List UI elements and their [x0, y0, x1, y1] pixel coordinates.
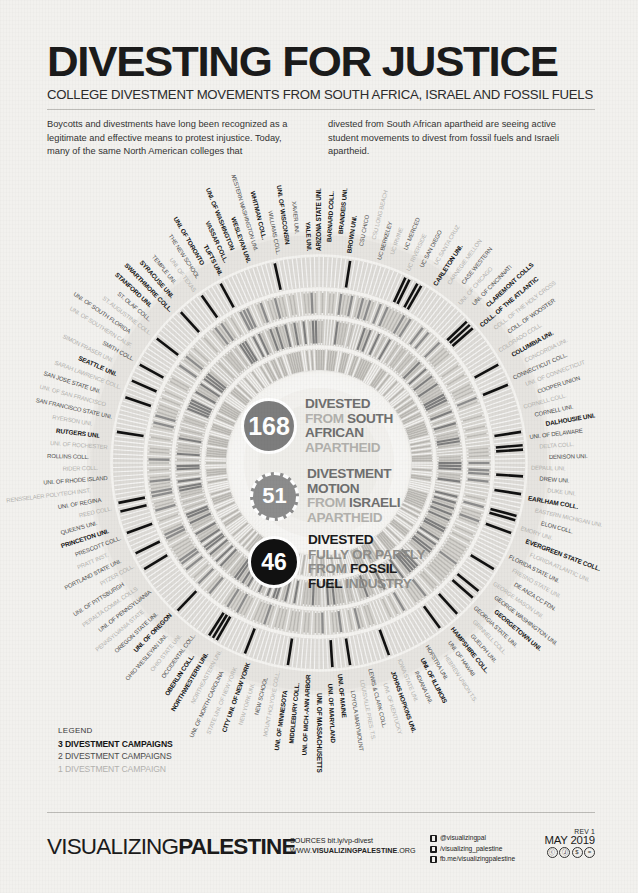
college-label: DEPAUL UNI. [531, 465, 566, 472]
instagram-icon [430, 846, 437, 853]
intro-column-left: Boycotts and divestments have long been … [47, 118, 302, 159]
college-label: BRANDEIS UNI. [337, 188, 348, 235]
legend-item-three: 3 DIVESTMENT CAMPAIGNS [58, 738, 173, 750]
intro-column-right: divested from South African apartheid ar… [328, 118, 583, 159]
college-label: DUKE UNI. [547, 487, 576, 496]
footer-divider [47, 812, 595, 813]
college-label: XAVIER UNI. [291, 201, 300, 235]
legend-item-one: 1 DIVESTMENT CAMPAIGN [58, 763, 173, 775]
college-label: LOYOLA MARYMOUNT [350, 690, 365, 752]
publication-date: MAY 2019 [544, 834, 595, 846]
stat-label-fossil-fuel: DIVESTED FULLY OR PARTLY FROM FOSSIL FUE… [308, 533, 425, 591]
college-label: RYERSON UNI. [52, 414, 94, 427]
page-title: DIVESTING FOR JUSTICE [47, 40, 606, 82]
intro-text: Boycotts and divestments have long been … [47, 118, 595, 159]
sources-info: SOURCES bit.ly/vp-divest WWW.VISUALIZING… [290, 836, 416, 857]
college-label: UNI. OF MASSACHUSETTS [316, 693, 323, 773]
page-footer: VISUALIZINGPALESTINE SOURCES bit.ly/vp-d… [47, 824, 595, 872]
facebook-icon [430, 856, 437, 863]
social-row-twitter[interactable]: @visualizingpal [430, 833, 515, 844]
legend: LEGEND 3 DIVESTMENT CAMPAIGNS 2 DIVESTME… [58, 726, 173, 775]
college-label: ROLLINS COLL. [47, 453, 90, 460]
cc-badge-nd: = [584, 847, 595, 858]
college-label: DENISON UNI. [549, 453, 588, 460]
stat-value-46: 46 [248, 536, 300, 588]
stat-block-fossil-fuel: 46 DIVESTED FULLY OR PARTLY FROM FOSSIL … [248, 533, 425, 591]
legend-item-two: 2 DIVESTMENT CAMPAIGNS [58, 750, 173, 762]
college-label: RIDER COLL. [63, 465, 99, 472]
page-header: DIVESTING FOR JUSTICE COLLEGE DIVESTMENT… [47, 40, 595, 110]
creative-commons-badges: ⓒⒿ$= [544, 847, 595, 858]
college-label: DELTA COLL. [539, 441, 575, 450]
college-label: UNI. OF MARYLAND [327, 684, 337, 744]
stat-label-israel: DIVESTMENT MOTION FROM ISRAELI APARTHEID [307, 467, 400, 525]
cc-badge-by: Ⓙ [559, 847, 570, 858]
cc-badge-nc: $ [572, 847, 583, 858]
college-label: YALE UNI. [305, 221, 313, 251]
header-divider [47, 109, 595, 110]
cc-badge-cc: ⓒ [547, 847, 558, 858]
page-subtitle: COLLEGE DIVESTMENT MOVEMENTS FROM SOUTH … [47, 87, 595, 102]
stat-block-israel: 51 DIVESTMENT MOTION FROM ISRAELI APARTH… [250, 467, 400, 525]
college-label: ARIZONA STATE UNI. [315, 188, 322, 251]
social-row-facebook[interactable]: fb.me/visualizingpalestine [430, 854, 515, 865]
stat-value-51: 51 [250, 472, 299, 521]
social-row-instagram[interactable]: /visualizing_palestine [430, 844, 515, 855]
twitter-icon [430, 835, 437, 842]
stat-block-south-africa: 168 DIVESTED FROM SOUTH AFRICAN APARTHEI… [241, 397, 393, 455]
revision-info: REV 1 MAY 2019 ⓒⒿ$= [544, 828, 595, 858]
legend-title: LEGEND [58, 726, 173, 735]
social-handles: @visualizingpal /visualizing_palestine f… [430, 833, 515, 865]
radial-ring-chart: ARIZONA STATE UNI.BARNARD COLL.BRANDEIS … [0, 175, 638, 795]
stat-value-168: 168 [241, 398, 297, 454]
stat-label-south-africa: DIVESTED FROM SOUTH AFRICAN APARTHEID [305, 397, 393, 455]
visualizing-palestine-logo: VISUALIZINGPALESTINE [47, 834, 296, 860]
